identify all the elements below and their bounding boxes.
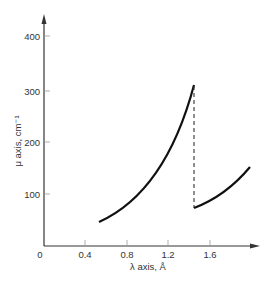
y-axis-label: μ axis, cm⁻¹: [12, 115, 23, 166]
y-axis-arrow-icon: [42, 14, 47, 24]
x-tick-label: 1.2: [161, 249, 174, 260]
y-tick-label: 300: [24, 86, 40, 97]
x-tick-label: 1.6: [203, 249, 216, 260]
x-axis-label: λ axis, Å: [130, 261, 167, 272]
absorption-chart: 400 300 200 100 0 0.4 0.8 1.2 1.6 λ axis…: [0, 0, 267, 282]
curve-above-edge: [194, 167, 250, 208]
x-tick-label: 0.4: [78, 249, 91, 260]
y-ticks: [44, 36, 50, 194]
x-tick-label: 0.8: [120, 249, 133, 260]
x-tick-label: 0: [37, 249, 42, 260]
y-tick-label: 200: [24, 137, 40, 148]
curve-below-edge: [99, 85, 194, 222]
x-ticks: [85, 240, 210, 246]
y-tick-label: 400: [24, 31, 40, 42]
x-axis-arrow-icon: [250, 244, 260, 249]
y-tick-label: 100: [24, 189, 40, 200]
